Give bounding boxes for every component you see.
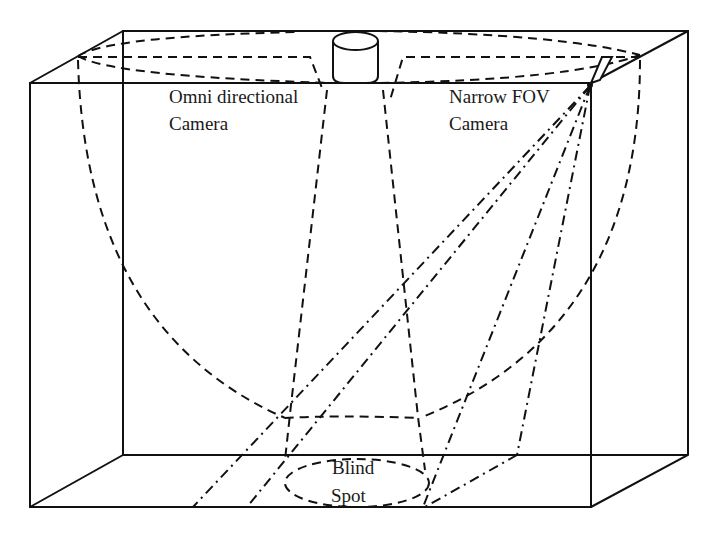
ceiling-ellipse-back-left bbox=[78, 32, 300, 56]
omni-camera-icon bbox=[333, 32, 378, 83]
ceiling-ellipse-front-left bbox=[78, 56, 330, 83]
narrow-fov-label-line2: Camera bbox=[449, 112, 508, 136]
omni-hemisphere-bottom bbox=[285, 417, 420, 419]
narrow-fov-label-line1: Narrow FOV bbox=[449, 85, 550, 109]
fov-ray-3 bbox=[423, 86, 590, 507]
narrow-fov-coverage bbox=[193, 86, 590, 507]
omni-cone-right bbox=[383, 90, 425, 470]
omni-cone-left bbox=[285, 90, 327, 460]
room-box bbox=[30, 31, 688, 507]
fov-ray-1 bbox=[193, 86, 590, 507]
omni-camera-label-line1: Omni directional bbox=[169, 85, 298, 109]
room-edge-bottom-left bbox=[30, 455, 123, 507]
narrow-fov-camera-icon bbox=[587, 57, 612, 88]
omni-coverage bbox=[78, 31, 640, 507]
fov-floor-right bbox=[425, 455, 517, 507]
fov-ray-4 bbox=[517, 86, 590, 455]
omni-camera-label-line2: Camera bbox=[169, 112, 228, 136]
fov-ray-2 bbox=[247, 86, 590, 507]
ceiling-ellipse-back-right bbox=[378, 31, 640, 55]
blind-spot-label-line1: Blind bbox=[332, 456, 374, 480]
blind-spot-label-line2: Spot bbox=[331, 484, 366, 508]
